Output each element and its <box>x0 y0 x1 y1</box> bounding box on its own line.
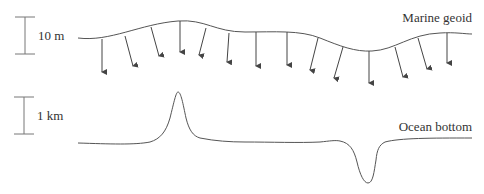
geoid-scale-label: 10 m <box>38 28 64 43</box>
gravity-arrow <box>395 47 403 77</box>
gravity-arrow <box>310 38 318 70</box>
gravity-arrow <box>418 38 427 69</box>
depth-scale-label: 1 km <box>37 108 63 123</box>
ocean-bottom-label: Ocean bottom <box>399 119 472 134</box>
gravity-arrow <box>199 28 206 55</box>
geoid-curve <box>78 21 472 51</box>
geoid-scale-bar <box>15 17 35 54</box>
geoid-label: Marine geoid <box>402 10 472 25</box>
gravity-arrow <box>151 27 159 56</box>
gravity-arrow <box>334 47 343 78</box>
gravity-arrows <box>102 21 447 83</box>
geoid-diagram: 10 m Marine geoid 1 km Ocean bottom <box>0 0 484 194</box>
depth-scale-bar <box>14 97 34 134</box>
gravity-arrow <box>227 33 229 62</box>
gravity-arrow <box>125 36 133 66</box>
ocean-bottom-profile <box>78 92 472 183</box>
